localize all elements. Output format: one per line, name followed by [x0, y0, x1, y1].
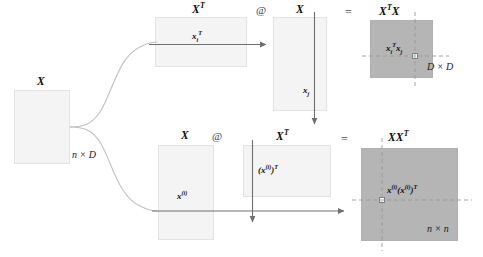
label-top-xt-base: X — [192, 3, 200, 15]
label-top-x-col-vector: xj — [303, 86, 309, 95]
label-bottom-xt-sup: T — [284, 128, 289, 137]
label-gram-dims: D × D — [427, 62, 453, 72]
bottom-row-vector-sup: (i) — [182, 190, 188, 196]
row-vector-sup: T — [198, 30, 202, 36]
label-source-x: X — [37, 76, 45, 88]
label-bottom-x-row-vector: x(i) — [177, 192, 187, 201]
label-top-xt: XT — [192, 4, 205, 16]
label-top-x: X — [296, 4, 304, 16]
bottom-col-sup-t: T — [274, 164, 278, 170]
gram-entry-cell-marker — [412, 53, 418, 59]
label-outer-dims: n × n — [427, 224, 449, 234]
matmul-operator-bottom: @ — [212, 131, 222, 142]
outer-entry-cell-marker — [379, 197, 385, 203]
label-bottom-xt: XT — [276, 131, 289, 143]
gram-entry-2-sub: j — [400, 49, 402, 55]
matrix-block-source-x — [14, 90, 70, 164]
label-bottom-xt-base: X — [276, 130, 284, 142]
outer-entry-b-sup-t: T — [414, 184, 418, 190]
label-result-outer-base: XX — [388, 131, 404, 143]
label-result-gram-tail: X — [392, 5, 400, 17]
row-vector-sub: i — [197, 37, 199, 43]
label-bottom-x: X — [181, 130, 189, 142]
matmul-operator-top: @ — [256, 5, 266, 16]
equals-operator-bottom: = — [341, 133, 348, 145]
equals-operator-top: = — [345, 6, 352, 18]
matrix-block-top-x — [273, 17, 327, 111]
label-top-xt-row-vector: xiT — [192, 32, 202, 41]
connector-split-bottom — [70, 127, 157, 211]
label-result-outer: XXT — [388, 132, 409, 144]
label-outer-entry: x(i)(x(i))T — [387, 186, 417, 195]
label-top-xt-sup: T — [200, 1, 205, 10]
col-vector-sub: j — [308, 91, 310, 97]
label-source-dims: n × D — [72, 150, 96, 160]
matrix-block-top-xt — [155, 17, 247, 67]
label-gram-entry: xiTxj — [386, 44, 402, 53]
label-result-gram: XTX — [379, 6, 400, 18]
gram-entry-1-sub: i — [391, 49, 393, 55]
label-result-outer-sup: T — [404, 129, 409, 138]
matrix-block-bottom-xt — [243, 145, 331, 197]
label-bottom-xt-col-vector: (x(i))T — [258, 166, 278, 175]
connector-split-top — [70, 42, 157, 127]
label-result-gram-base: X — [379, 5, 387, 17]
diagram-canvas: X n × D XT xiT @ X xj = XTX xiTxj D × D … — [0, 0, 483, 257]
